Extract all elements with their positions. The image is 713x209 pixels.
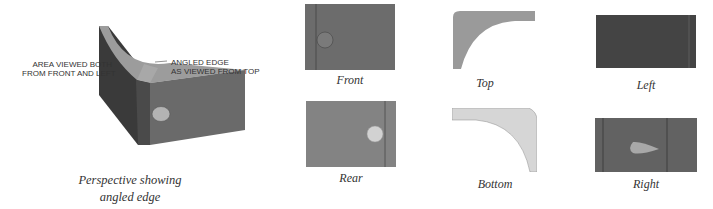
front-label: Front [305,73,395,88]
left-label: Left [616,78,676,93]
callout-area-viewed: AREA VIEWED BOTH FROM FRONT AND LEFT [22,60,112,78]
perspective-caption: Perspective showing angled edge and area [60,172,200,209]
callout-angled-edge: ANGLED EDGE AS VIEWED FROM TOP [171,58,260,76]
top-view [453,9,538,71]
right-view-drawing [595,118,697,172]
left-view [596,15,696,68]
top-label: Top [455,76,515,91]
bottom-view-drawing [452,108,537,172]
rear-label: Rear [306,171,396,186]
top-view-drawing [453,9,538,71]
bottom-label: Bottom [465,177,525,192]
front-view-drawing [305,4,395,70]
right-view [595,118,697,172]
right-label: Right [616,177,676,192]
rear-view [306,101,396,167]
perspective-block-drawing [0,0,260,160]
perspective-view: AREA VIEWED BOTH FROM FRONT AND LEFT ANG… [0,0,260,209]
rear-view-drawing [306,101,396,167]
bottom-view [452,108,537,172]
left-view-drawing [596,15,696,68]
front-view [305,4,395,70]
